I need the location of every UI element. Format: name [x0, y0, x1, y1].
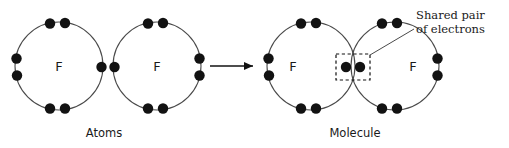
- molecule-caption: Molecule: [329, 126, 380, 140]
- right-panel-molecule: F F Molecule: [263, 18, 442, 140]
- electron-dot: [194, 53, 204, 63]
- electron-dot: [158, 103, 168, 113]
- atoms-caption: Atoms: [86, 126, 122, 140]
- electron-dot: [432, 53, 442, 63]
- atom-left-1: F: [11, 18, 106, 114]
- shared-pair-group: [336, 54, 370, 80]
- electron-dot: [377, 103, 387, 113]
- atom-left-2: F: [109, 18, 204, 114]
- electron-dot: [96, 62, 106, 72]
- atom-symbol-label: F: [55, 59, 62, 74]
- electron-dot: [432, 70, 442, 80]
- diagram-canvas: F F Atoms F F: [0, 0, 509, 148]
- electron-dot: [11, 53, 21, 63]
- electron-dot: [355, 62, 365, 72]
- fluorine-bonding-diagram: F F Atoms F F: [0, 0, 509, 148]
- electron-dot: [109, 62, 119, 72]
- electron-dot: [296, 18, 306, 28]
- electron-dot: [296, 103, 306, 113]
- electron-dot: [194, 70, 204, 80]
- atom-symbol-label: F: [153, 59, 160, 74]
- annotation-group: Shared pair of electrons: [370, 8, 485, 55]
- left-panel-atoms: F F Atoms: [11, 18, 204, 140]
- electron-dot: [392, 103, 402, 113]
- reaction-arrow-group: [210, 62, 253, 70]
- electron-dot: [311, 103, 321, 113]
- electron-dot: [158, 18, 168, 28]
- electron-dot: [60, 103, 70, 113]
- electron-dot: [143, 103, 153, 113]
- electron-dot: [60, 18, 70, 28]
- atom-symbol-label: F: [409, 59, 416, 74]
- electron-dot: [311, 18, 321, 28]
- electron-dot: [341, 62, 351, 72]
- electron-dot: [45, 18, 55, 28]
- electron-dot: [12, 70, 22, 80]
- electron-dot: [264, 70, 274, 80]
- electron-dot: [263, 53, 273, 63]
- reaction-arrow-head: [244, 62, 253, 70]
- annotation-leader-line: [370, 29, 414, 55]
- annotation-line-1: Shared pair: [416, 8, 485, 22]
- shared-pair-electrons: [341, 62, 365, 72]
- electron-dot: [143, 18, 153, 28]
- electron-dot: [392, 18, 402, 28]
- electron-dot: [45, 103, 55, 113]
- atom-symbol-label: F: [289, 59, 296, 74]
- electron-dot: [377, 18, 387, 28]
- annotation-line-2: of electrons: [416, 22, 485, 36]
